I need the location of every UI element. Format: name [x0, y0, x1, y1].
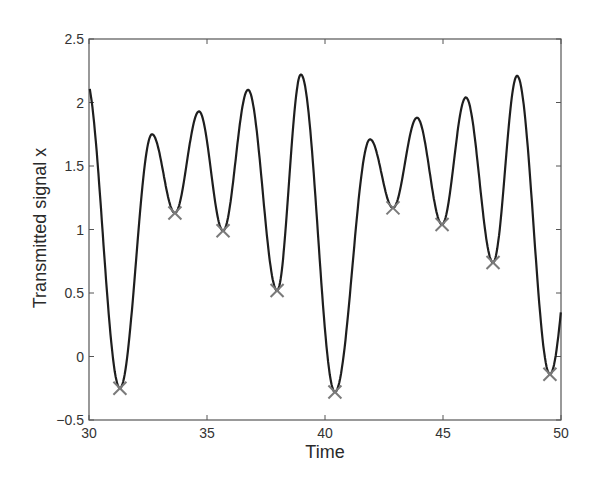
y-axis-label: Transmitted signal x	[30, 148, 51, 308]
x-tick-label: 35	[199, 425, 215, 441]
y-tick-label: 0	[76, 349, 84, 365]
plot-area: 3035404550−0.500.511.522.5	[56, 31, 569, 441]
y-tick-label: −0.5	[56, 412, 84, 428]
y-tick-label: 1.5	[65, 158, 85, 174]
x-tick-label: 45	[435, 425, 451, 441]
y-tick-label: 2	[76, 95, 84, 111]
y-tick-label: 2.5	[65, 31, 85, 47]
y-tick-label: 0.5	[65, 285, 85, 301]
x-tick-label: 50	[553, 425, 569, 441]
x-axis-label: Time	[305, 442, 344, 463]
line-chart: 3035404550−0.500.511.522.5	[0, 0, 596, 478]
x-tick-label: 40	[317, 425, 333, 441]
axes-box	[89, 39, 561, 420]
y-tick-label: 1	[76, 222, 84, 238]
